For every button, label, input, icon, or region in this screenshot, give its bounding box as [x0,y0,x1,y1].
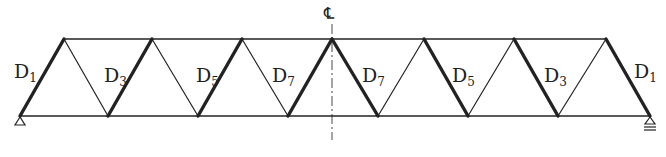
diagonal-member [64,39,108,116]
diagonal-member [378,39,424,116]
member-label: D1 [14,62,37,84]
member-label: D5 [196,66,219,88]
roller-support-icon [644,117,656,130]
truss-diagram: ℄ D1D3D5D7D7D5D3D1 [0,0,666,157]
member-label: D7 [272,66,295,88]
member-label: D7 [362,66,385,88]
centerline-label: ℄ [324,4,334,23]
member-label: D3 [544,66,567,88]
pin-support-icon [15,117,25,125]
diagonal-member [468,39,514,116]
diagonal-member [152,39,198,116]
member-label: D3 [104,66,127,88]
member-label: D1 [634,62,657,84]
member-label: D5 [452,66,475,88]
